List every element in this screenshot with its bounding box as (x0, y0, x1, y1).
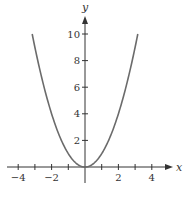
y-tick-label: 10 (67, 29, 80, 40)
y-tick-label: 6 (74, 82, 80, 93)
chart-canvas: −4−224246810 x y (0, 0, 187, 197)
x-tick-label: 4 (149, 172, 155, 183)
x-tick-label: −4 (11, 172, 26, 183)
x-tick-label: 2 (115, 172, 121, 183)
x-axis-label: x (176, 161, 183, 174)
y-tick-label: 2 (74, 135, 80, 146)
y-tick-label: 4 (74, 108, 80, 119)
parabola-chart: −4−224246810 x y (0, 0, 187, 197)
y-tick-label: 8 (74, 55, 80, 66)
x-axis-arrow-icon (165, 164, 173, 170)
y-axis-label: y (81, 1, 89, 14)
x-tick-label: −2 (44, 172, 59, 183)
axes (7, 16, 173, 183)
y-axis-arrow-icon (82, 16, 88, 24)
